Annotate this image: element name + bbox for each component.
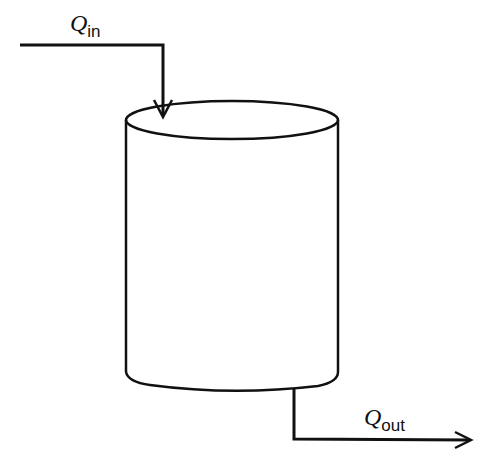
inflow-arrow	[20, 45, 172, 117]
outflow-symbol: Q	[364, 404, 381, 430]
inflow-subscript: in	[87, 22, 100, 41]
inflow-label: Qin	[70, 10, 101, 37]
diagram-canvas: Qin Qout	[0, 0, 485, 458]
tank-cylinder	[126, 101, 338, 391]
tank-diagram	[0, 0, 485, 458]
inflow-symbol: Q	[70, 10, 87, 36]
outflow-subscript: out	[381, 416, 405, 435]
outflow-label: Qout	[364, 404, 405, 431]
